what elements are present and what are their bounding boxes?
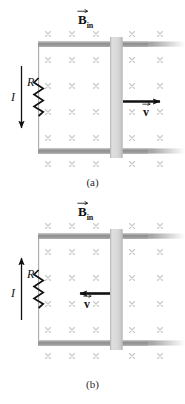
b-field-letter-b: B	[78, 204, 87, 219]
panel-b-drawing	[0, 202, 185, 382]
v-vector-symbol-b: v	[84, 298, 90, 310]
magnetic-field-label-b: B in	[78, 205, 93, 222]
vector-arrow-icon	[77, 200, 89, 205]
v-letter-a: v	[143, 105, 149, 119]
sliding-bar-a[interactable]	[110, 37, 123, 158]
resistor-label-a: R	[27, 76, 34, 88]
velocity-label-b: v	[84, 298, 90, 310]
panel-b-stage: B in R I v	[0, 202, 185, 382]
vector-arrow-icon	[83, 293, 92, 298]
b-vector-symbol-a: B	[78, 13, 87, 26]
sliding-bar-b[interactable]	[110, 229, 123, 350]
panel-caption-a: (a)	[0, 176, 185, 188]
b-field-subscript-b: in	[87, 213, 93, 222]
v-vector-symbol-a: v	[143, 106, 149, 118]
b-field-letter-a: B	[78, 12, 87, 27]
field-marks-into-page-a	[46, 32, 163, 167]
field-marks-into-page-b	[46, 224, 163, 359]
b-field-subscript-a: in	[87, 21, 93, 30]
velocity-label-a: v	[143, 106, 149, 118]
b-vector-symbol-b: B	[78, 205, 87, 218]
resistor-label-b: R	[27, 268, 34, 280]
magnetic-field-label-a: B in	[78, 13, 93, 30]
figure-panel-b: B in R I v (b)	[0, 202, 185, 404]
current-label-b: I	[11, 287, 15, 299]
panel-caption-b: (b)	[0, 378, 185, 390]
figure-panel-a: B in R I v (a)	[0, 0, 185, 202]
vector-arrow-icon	[142, 101, 151, 106]
panel-a-stage: B in R I v	[0, 0, 185, 180]
current-label-a: I	[11, 91, 15, 103]
vector-arrow-icon	[77, 8, 89, 13]
v-letter-b: v	[84, 297, 90, 311]
